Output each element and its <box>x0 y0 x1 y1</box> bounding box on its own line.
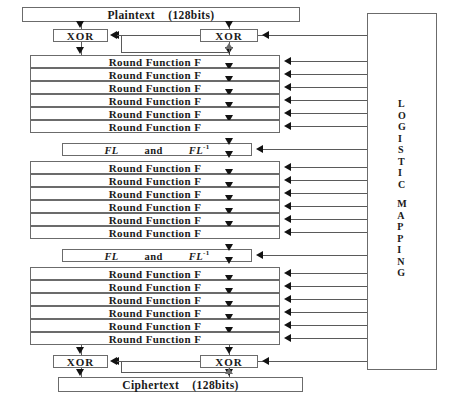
round-key-line <box>290 167 367 168</box>
fl-symbol-left: FL <box>104 145 118 156</box>
round-function-label: Round Function F <box>109 95 202 107</box>
fl-conjunction: and <box>145 251 163 262</box>
round-function-label: Round Function F <box>109 121 202 133</box>
round-function-row: Round Function F <box>30 55 280 68</box>
round-function-row: Round Function F <box>30 280 280 293</box>
plaintext-box: Plaintext (128bits) <box>22 7 300 22</box>
round-key-line <box>290 87 367 88</box>
round-function-row: Round Function F <box>30 200 280 213</box>
round-function-row: Round Function F <box>30 213 280 226</box>
round-function-label: Round Function F <box>109 188 202 200</box>
round-key-arrow <box>284 122 291 130</box>
round-key-arrow <box>284 295 291 303</box>
round-function-row: Round Function F <box>30 226 280 239</box>
plaintext-left-arrow <box>76 21 84 28</box>
round-function-label: Round Function F <box>109 69 202 81</box>
round-key-arrow <box>284 321 291 329</box>
round-function-row: Round Function F <box>30 306 280 319</box>
xor-bottom-right-key-line <box>268 361 367 362</box>
xor-bottom-right-label: XOR <box>215 356 242 368</box>
xor-top-right-label: XOR <box>215 30 242 42</box>
round-key-arrow <box>284 308 291 316</box>
logistic-logistic-letter-0: L <box>398 98 406 110</box>
round-function-row: Round Function F <box>30 332 280 345</box>
round-key-arrow <box>284 202 291 210</box>
bottom-cross-horizontal <box>121 372 229 373</box>
round-key-line <box>290 180 367 181</box>
round-key-arrow <box>284 176 291 184</box>
round-function-row: Round Function F <box>30 120 280 133</box>
final-right-arrow <box>225 347 233 354</box>
round-function-label: Round Function F <box>109 307 202 319</box>
xor-top-right: XOR <box>200 29 258 42</box>
round-key-line <box>290 273 367 274</box>
round-key-line <box>290 74 367 75</box>
round-function-label: Round Function F <box>109 175 202 187</box>
round-function-row: Round Function F <box>30 187 280 200</box>
logistic-logistic-letter-5: T <box>398 156 406 168</box>
fl-key-line <box>262 149 367 150</box>
xor-top-left-output-arrow <box>76 47 84 54</box>
round-function-label: Round Function F <box>109 56 202 68</box>
round-key-arrow <box>284 215 291 223</box>
logistic-logistic-letter-4: S <box>398 144 406 156</box>
top-right-xor-up-arrow <box>225 43 233 49</box>
final-left-arrow <box>76 347 84 354</box>
fl-symbol-right: FL-1 <box>189 143 210 156</box>
fl-key-line <box>262 255 367 256</box>
round-function-row: Round Function F <box>30 68 280 81</box>
xor-bottom-left: XOR <box>53 355 108 368</box>
round-function-row: Round Function F <box>30 267 280 280</box>
round-key-arrow <box>284 83 291 91</box>
logistic-mapping-letter-6: G <box>397 267 406 279</box>
round-key-arrow <box>284 189 291 197</box>
round-key-arrow <box>284 334 291 342</box>
fl-layer-inner: FLandFL-1 <box>104 249 209 262</box>
round-key-line <box>290 325 367 326</box>
top-cross-riser <box>121 35 122 52</box>
xor-top-left-label: XOR <box>67 30 94 42</box>
logistic-mapping-letter-0: M <box>397 198 406 210</box>
round-key-arrow <box>284 70 291 78</box>
fl-key-arrow <box>256 145 263 153</box>
fl-in-arrow <box>225 138 233 145</box>
round-function-row: Round Function F <box>30 161 280 174</box>
round-key-line <box>290 100 367 101</box>
plaintext-label: Plaintext (128bits) <box>107 9 214 21</box>
round-key-line <box>290 61 367 62</box>
fl-symbol-right-superscript: -1 <box>203 249 210 257</box>
fl-symbol-right-superscript: -1 <box>203 143 210 151</box>
logistic-mapping-letter-1: A <box>397 210 406 222</box>
top-cross-arrow <box>110 31 117 39</box>
round-function-label: Round Function F <box>109 108 202 120</box>
round-function-row: Round Function F <box>30 94 280 107</box>
round-key-arrow <box>284 109 291 117</box>
logistic-logistic-letter-3: I <box>398 133 406 145</box>
ciphertext-box: Ciphertext (128bits) <box>58 377 303 392</box>
xor-bottom-right: XOR <box>200 355 258 368</box>
round-key-line <box>290 193 367 194</box>
xor-top-left: XOR <box>53 29 108 42</box>
logistic-mapping-label: LOGISTIC MAPPING <box>367 98 437 279</box>
round-function-label: Round Function F <box>109 82 202 94</box>
round-key-line <box>290 338 367 339</box>
round-key-line <box>290 232 367 233</box>
logistic-mapping-letter-5: N <box>397 256 406 268</box>
fl-layer-inner: FLandFL-1 <box>104 143 209 156</box>
top-cross-horizontal <box>121 52 229 53</box>
round-key-arrow <box>284 163 291 171</box>
fl-symbol-right: FL-1 <box>189 249 210 262</box>
round-function-label: Round Function F <box>109 294 202 306</box>
logistic-logistic-letter-6: I <box>398 167 406 179</box>
bottom-right-xor-up-arrow <box>225 368 233 374</box>
ciphertext-label: Ciphertext (128bits) <box>122 379 239 391</box>
round-function-label: Round Function F <box>109 227 202 239</box>
logistic-word-mapping: MAPPING <box>397 198 406 279</box>
xor-bottom-right-key-arrow <box>262 357 269 365</box>
ciphertext-left-arrow <box>76 369 84 376</box>
plaintext-right-arrow <box>225 21 233 28</box>
round-function-label: Round Function F <box>109 162 202 174</box>
round-function-label: Round Function F <box>109 201 202 213</box>
logistic-logistic-letter-7: C <box>398 179 406 191</box>
cipher-diagram: Plaintext (128bits) Ciphertext (128bits)… <box>0 0 451 402</box>
